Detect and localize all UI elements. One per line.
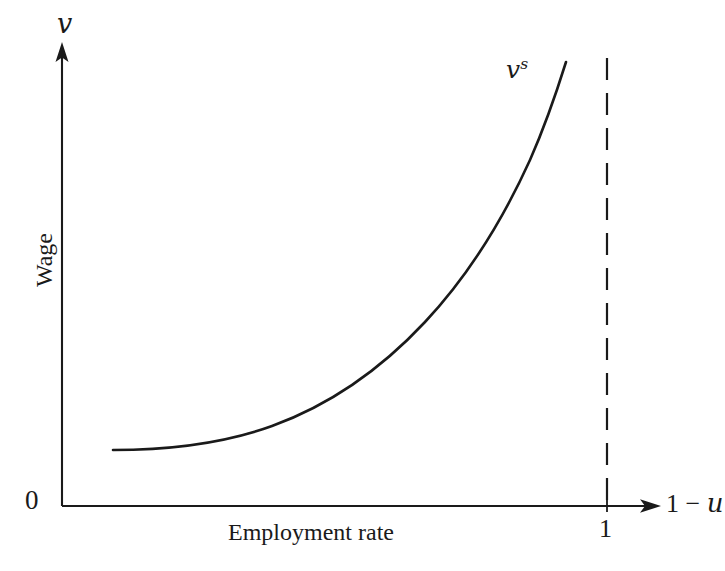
wage-employment-figure: v Wage 0 Employment rate 1 1 − u vs — [0, 0, 725, 571]
x-axis-tick-label-one: 1 — [599, 516, 612, 542]
curve-label: vs — [506, 57, 528, 82]
wage-supply-curve — [113, 62, 566, 450]
x-axis-title-label: Employment rate — [228, 520, 394, 544]
curve-label-superscript: s — [520, 55, 528, 73]
curve-label-base: v — [506, 55, 520, 84]
y-axis — [56, 42, 69, 506]
y-axis-title-label: Wage — [32, 210, 56, 310]
origin-zero-label: 0 — [25, 487, 39, 514]
plot-canvas — [0, 0, 725, 571]
x-axis — [62, 499, 661, 513]
x-axis-symbol-prefix: 1 − — [666, 489, 707, 518]
y-axis-symbol-label: v — [57, 10, 72, 37]
x-axis-symbol-variable: u — [707, 488, 724, 518]
x-axis-symbol-label: 1 − u — [666, 490, 723, 517]
